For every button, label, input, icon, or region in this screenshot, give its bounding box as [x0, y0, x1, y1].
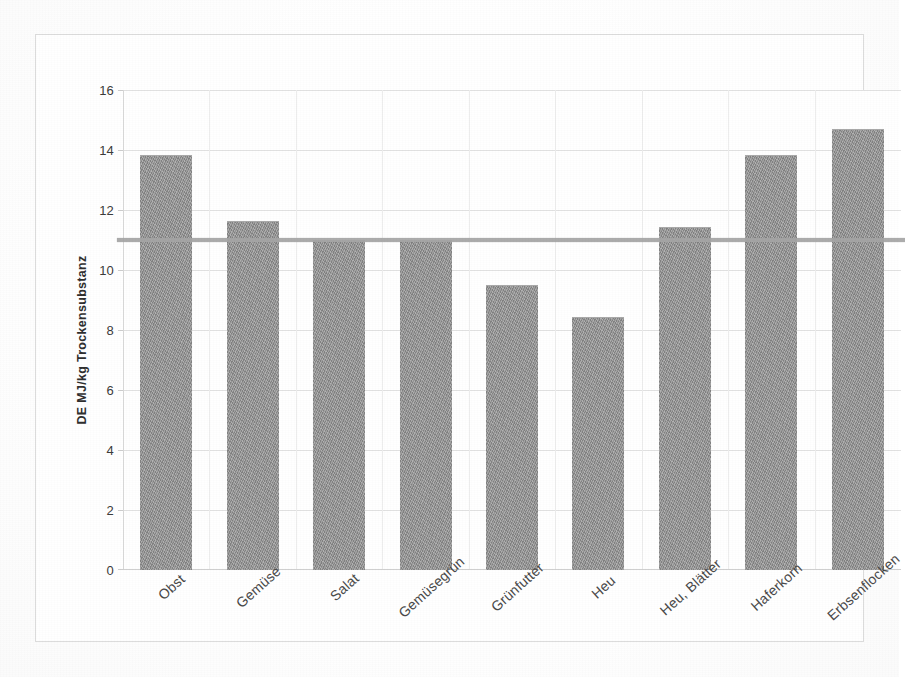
bar-slot-heu: [555, 90, 641, 570]
bar-slot-obst: [123, 90, 209, 570]
bar-salat: [313, 240, 365, 570]
bar-slot-heu-blaetter: [642, 90, 728, 570]
x-axis-labels: Obst Gemüse Salat Gemüsegrün Grünfutter …: [123, 575, 901, 677]
bar-heu: [572, 317, 624, 571]
bar-slot-gruenfutter: [469, 90, 555, 570]
bar-obst: [140, 155, 192, 571]
y-tick-label-10: 10: [99, 263, 114, 278]
chart-frame: DE MJ/kg Trockensubstanz 16: [35, 34, 864, 642]
y-tick-label-12: 12: [99, 203, 114, 218]
x-label-salat: Salat: [327, 570, 362, 604]
bar-gemuesegruen: [400, 240, 452, 570]
bar-series: [123, 90, 901, 570]
x-label-heu: Heu: [589, 572, 619, 601]
y-tick-label-6: 6: [107, 383, 114, 398]
y-tick-label-0: 0: [107, 563, 114, 578]
y-tick-label-16: 16: [99, 83, 114, 98]
bar-slot-haferkorn: [728, 90, 814, 570]
y-axis-title: DE MJ/kg Trockensubstanz: [75, 255, 89, 424]
bar-gemuese: [227, 221, 279, 571]
bar-slot-gemuesegruen: [382, 90, 468, 570]
bar-slot-gemuese: [209, 90, 295, 570]
y-tick-label-14: 14: [99, 143, 114, 158]
bar-slot-erbsenflocken: [815, 90, 901, 570]
x-label-gemuese: Gemüse: [233, 563, 284, 611]
y-tick-label-8: 8: [107, 323, 114, 338]
reference-line: [117, 238, 905, 242]
bar-haferkorn: [745, 155, 797, 571]
bar-slot-salat: [296, 90, 382, 570]
y-tick-label-4: 4: [107, 443, 114, 458]
plot-area: 16 14 12 10 8 6 4 2 0: [123, 90, 901, 570]
x-label-obst: Obst: [155, 571, 188, 603]
bar-gruenfutter: [486, 285, 538, 570]
bar-erbsenflocken: [832, 129, 884, 570]
y-tick-label-2: 2: [107, 503, 114, 518]
bar-heu-blaetter: [659, 227, 711, 571]
